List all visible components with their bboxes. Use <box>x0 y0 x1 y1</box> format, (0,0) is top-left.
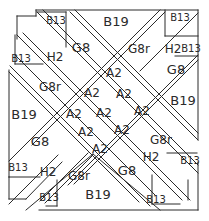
piece-label-b19-right: B19 <box>170 93 195 108</box>
piece-label-b13-bottom-left-upper: B13 <box>8 162 28 173</box>
piece-label-a2-3: A2 <box>116 87 132 101</box>
piece-label-h2-bottom-right: H2 <box>143 150 160 164</box>
piece-label-h2-bottom-left: H2 <box>40 165 57 179</box>
piece-label-b13-bottom-right-lower: B13 <box>146 194 166 205</box>
piece-label-g8r-left-upper: G8r <box>39 80 61 94</box>
piece-label-a2-5: A2 <box>96 106 112 120</box>
piece-label-g8-left-lower: G8 <box>31 134 49 149</box>
piece-label-a2-2: A2 <box>84 86 100 100</box>
piece-label-g8r-top-right: G8r <box>128 42 150 56</box>
piece-label-b13-bottom-left-lower: B13 <box>39 192 59 203</box>
piece-label-b19-left: B19 <box>11 107 36 122</box>
piece-label-a2-6: A2 <box>134 104 150 118</box>
piece-label-a2-7: A2 <box>78 125 94 139</box>
piece-label-g8r-right-lower: G8r <box>150 133 172 147</box>
piece-label-b19-top: B19 <box>103 14 128 29</box>
piece-label-g8-top-left: G8 <box>72 40 90 55</box>
piece-label-b13-top-left-lower: B13 <box>11 53 31 64</box>
quilt-block-diagram: B13B19B13G8G8rH2B13B13H2G8G8rB19B19G8G8r… <box>0 0 209 221</box>
piece-label-h2-top-left: H2 <box>47 50 64 64</box>
piece-label-b13-top-right-upper: B13 <box>170 12 190 23</box>
piece-label-g8-bottom-right: G8 <box>118 163 136 178</box>
ne-strip-b <box>32 12 165 145</box>
piece-label-a2-1: A2 <box>106 66 122 80</box>
piece-label-g8r-bottom-left: G8r <box>68 169 90 183</box>
piece-label-h2-top-right: H2 <box>165 42 182 56</box>
piece-label-g8-right-upper: G8 <box>167 62 185 77</box>
piece-label-b13-bottom-right-upper: B13 <box>180 155 200 166</box>
piece-label-a2-9: A2 <box>92 142 108 156</box>
piece-label-a2-8: A2 <box>114 123 130 137</box>
piece-label-b13-top-right-lower: B13 <box>181 43 201 54</box>
piece-label-b19-bottom: B19 <box>85 187 110 202</box>
piece-label-a2-4: A2 <box>66 107 82 121</box>
piece-label-b13-top-left-upper: B13 <box>46 15 66 26</box>
